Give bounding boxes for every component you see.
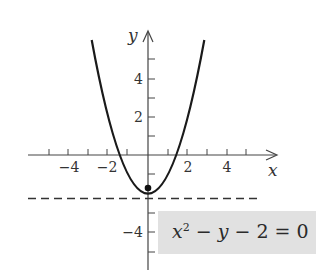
equation-var-y: y — [218, 220, 229, 242]
x-tick-label: 4 — [223, 159, 232, 175]
y-tick-label: −4 — [122, 224, 143, 240]
equation-exponent: 2 — [183, 221, 190, 234]
equation-text: x2 − y − 2 = 0 — [172, 220, 309, 242]
equation-minus: − — [190, 220, 218, 242]
y-axis-label: y — [127, 25, 138, 45]
x-tick-label: 2 — [184, 159, 193, 175]
equation-tail: − 2 = 0 — [228, 220, 308, 242]
y-tick-label: 4 — [134, 71, 143, 87]
y-tick-label: 2 — [134, 109, 143, 125]
x-axis-label: x — [268, 160, 278, 180]
x-tick-label: −4 — [59, 159, 80, 175]
x-tick-label: −2 — [97, 159, 118, 175]
focus-point — [145, 185, 152, 192]
equation-label-box: x2 − y − 2 = 0 — [158, 211, 316, 254]
equation-var-x: x — [172, 220, 183, 242]
